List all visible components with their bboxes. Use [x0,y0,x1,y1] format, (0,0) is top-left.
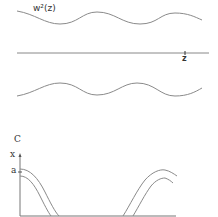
lower-wave-curve [17,83,202,96]
y-axis-label: x [10,150,15,159]
panel-letter: C [14,135,21,144]
right-inner-curve [133,178,173,216]
z-axis-label: z [182,55,187,63]
function-label: w²(z) [33,4,56,13]
left-outer-curve [20,169,59,216]
diagram-canvas [0,0,218,217]
y-axis-arrow-icon [19,153,22,157]
right-outer-curve [123,170,177,216]
a-tick-label: a [11,166,16,175]
left-inner-curve [20,176,51,216]
